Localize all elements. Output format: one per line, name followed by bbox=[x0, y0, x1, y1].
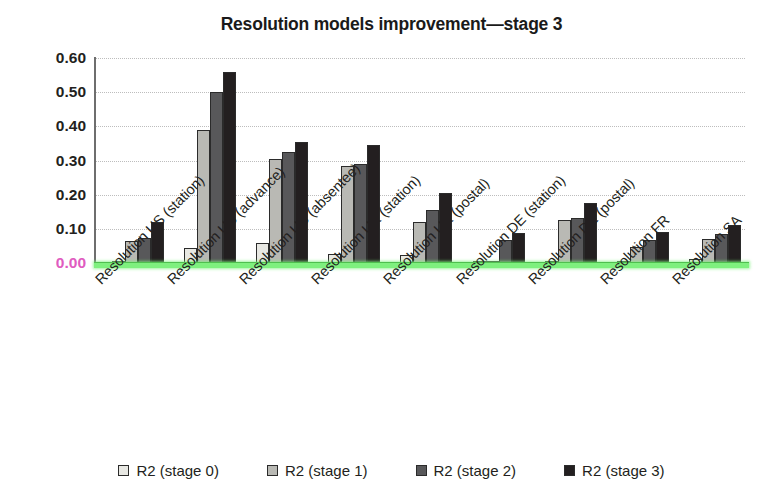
legend-item[interactable]: R2 (stage 1) bbox=[267, 462, 368, 479]
bar bbox=[584, 203, 597, 263]
legend-label: R2 (stage 0) bbox=[136, 462, 219, 479]
bar bbox=[269, 159, 282, 263]
legend-swatch-icon bbox=[267, 465, 278, 476]
chart-title: Resolution models improvement—stage 3 bbox=[0, 14, 783, 35]
legend-swatch-icon bbox=[118, 465, 129, 476]
bar bbox=[715, 234, 728, 263]
bar-group bbox=[473, 58, 525, 263]
legend-item[interactable]: R2 (stage 3) bbox=[564, 462, 665, 479]
bar-chart: Resolution models improvement—stage 3 0.… bbox=[0, 0, 783, 503]
legend-item[interactable]: R2 (stage 0) bbox=[118, 462, 219, 479]
bar-group bbox=[256, 58, 308, 263]
bar bbox=[656, 232, 669, 263]
bar bbox=[499, 240, 512, 263]
bar-group bbox=[184, 58, 236, 263]
legend-label: R2 (stage 2) bbox=[434, 462, 517, 479]
y-axis-tick-label: 0.20 bbox=[34, 186, 86, 204]
legend-label: R2 (stage 3) bbox=[582, 462, 665, 479]
bar bbox=[512, 233, 525, 263]
y-axis-tick-label: 0.30 bbox=[34, 152, 86, 170]
legend-label: R2 (stage 1) bbox=[285, 462, 368, 479]
bar bbox=[256, 243, 269, 264]
bar bbox=[702, 239, 715, 263]
x-axis-line bbox=[94, 262, 749, 268]
bar bbox=[197, 130, 210, 263]
y-axis-tick-label: 0.10 bbox=[34, 220, 86, 238]
bar bbox=[367, 145, 380, 263]
bar bbox=[643, 240, 656, 263]
bar-group bbox=[400, 58, 452, 263]
y-axis-tick-label: 0.40 bbox=[34, 117, 86, 135]
bar-group bbox=[545, 58, 597, 263]
bar bbox=[210, 92, 223, 263]
bar-group bbox=[617, 58, 669, 263]
bar-group bbox=[689, 58, 741, 263]
legend-item[interactable]: R2 (stage 2) bbox=[416, 462, 517, 479]
bar bbox=[558, 220, 571, 263]
bar-group bbox=[328, 58, 380, 263]
bar bbox=[282, 152, 295, 263]
bar bbox=[184, 248, 197, 263]
bar bbox=[439, 193, 452, 263]
bar bbox=[426, 210, 439, 263]
legend-swatch-icon bbox=[416, 465, 427, 476]
bar bbox=[223, 72, 236, 263]
plot-area bbox=[96, 58, 745, 263]
bar bbox=[151, 222, 164, 263]
bar bbox=[295, 142, 308, 263]
bar bbox=[125, 241, 138, 263]
bar bbox=[138, 238, 151, 263]
bar-group bbox=[112, 58, 164, 263]
bar bbox=[413, 222, 426, 263]
chart-legend: R2 (stage 0)R2 (stage 1)R2 (stage 2)R2 (… bbox=[0, 462, 783, 479]
bar bbox=[728, 225, 741, 263]
bar bbox=[354, 164, 367, 263]
bar bbox=[571, 218, 584, 263]
legend-swatch-icon bbox=[564, 465, 575, 476]
y-axis-tick-label: 0.60 bbox=[34, 49, 86, 67]
y-axis-tick-label: 0.00 bbox=[34, 254, 86, 272]
bar bbox=[341, 166, 354, 263]
y-axis-tick-label: 0.50 bbox=[34, 83, 86, 101]
bar bbox=[630, 247, 643, 263]
